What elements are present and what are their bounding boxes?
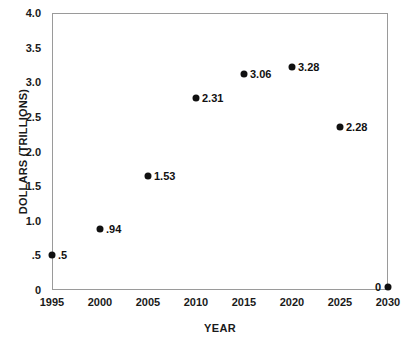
data-point-2020[interactable]	[289, 64, 296, 71]
data-point-label-2000: .94	[106, 223, 121, 235]
x-axis-tick-2025: 2025	[317, 296, 363, 308]
x-axis-title: YEAR	[52, 322, 388, 334]
x-axis-tick-2000: 2000	[77, 296, 123, 308]
x-axis-tick-2010: 2010	[173, 296, 219, 308]
x-axis-tick-2005: 2005	[125, 296, 171, 308]
y-axis-tick-1p5: 1.5	[0, 180, 46, 192]
x-axis-tick-2020: 2020	[269, 296, 315, 308]
data-point-label-2005: 1.53	[154, 170, 175, 182]
data-point-2005[interactable]	[145, 172, 152, 179]
x-axis-tick-2015: 2015	[221, 296, 267, 308]
data-point-2010[interactable]	[193, 95, 200, 102]
x-axis-tick-1995: 1995	[29, 296, 75, 308]
scatter-chart-figure: DOLLARS (TRILLIONS) YEAR 0.51.01.52.02.5…	[0, 0, 417, 346]
data-point-label-2010: 2.31	[202, 92, 223, 104]
data-point-2000[interactable]	[97, 226, 104, 233]
data-point-2030[interactable]	[385, 284, 392, 291]
y-axis-tick-2p5: 2.5	[0, 111, 46, 123]
data-point-label-2015: 3.06	[250, 68, 271, 80]
data-point-1995[interactable]	[49, 252, 56, 259]
y-axis-tick-0: 0	[0, 284, 46, 296]
plot-area	[52, 13, 388, 290]
data-point-label-2030: 0	[375, 281, 381, 293]
x-axis-tick-2030: 2030	[365, 296, 411, 308]
y-axis-tick-p5: .5	[0, 249, 46, 261]
y-axis-tick-4p0: 4.0	[0, 7, 46, 19]
y-axis-tick-3p5: 3.5	[0, 42, 46, 54]
y-axis-tick-3p0: 3.0	[0, 76, 46, 88]
y-axis-tick-2p0: 2.0	[0, 146, 46, 158]
data-point-label-2020: 3.28	[298, 61, 319, 73]
data-point-2025[interactable]	[337, 123, 344, 130]
data-point-2015[interactable]	[241, 70, 248, 77]
data-point-label-1995: .5	[58, 249, 67, 261]
y-axis-tick-1p0: 1.0	[0, 215, 46, 227]
data-point-label-2025: 2.28	[346, 121, 367, 133]
